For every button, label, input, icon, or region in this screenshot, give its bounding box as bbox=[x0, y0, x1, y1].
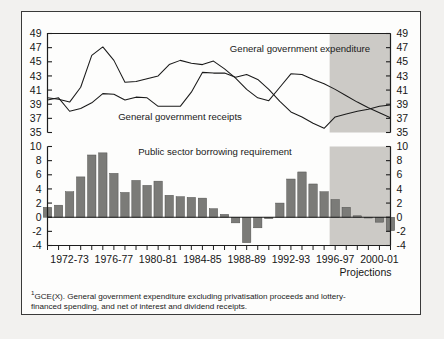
psbr-bar bbox=[88, 155, 96, 217]
ytick-label-left-39: 39 bbox=[30, 98, 42, 110]
ytick-label-left-43: 43 bbox=[30, 70, 42, 82]
psbr-bar bbox=[331, 200, 339, 218]
psbr-bar bbox=[287, 179, 295, 217]
psbr-bar bbox=[254, 217, 262, 228]
xtick-label: 1988-89 bbox=[227, 253, 266, 265]
psbr-bar bbox=[375, 217, 383, 222]
xtick-label: 1972-73 bbox=[50, 253, 89, 265]
ytick-label-left-2: 2 bbox=[36, 197, 42, 209]
ytick-label-left-35: 35 bbox=[30, 126, 42, 138]
ytick-label-right--4: -4 bbox=[397, 239, 406, 251]
ytick-label-right--2: -2 bbox=[397, 225, 406, 237]
annotation-general-government-expenditure: General government expenditure bbox=[230, 43, 370, 54]
annotation-public-sector-borrowing-requirement: Public sector borrowing requirement bbox=[138, 146, 292, 157]
psbr-bar bbox=[165, 195, 173, 217]
ytick-label-left-45: 45 bbox=[30, 55, 42, 67]
annotation-general-government-receipts: General government receipts bbox=[118, 111, 242, 122]
ytick-label-left-47: 47 bbox=[30, 41, 42, 53]
figure-background: 3537394143454749 3537394143454749 Genera… bbox=[0, 0, 444, 339]
psbr-bar bbox=[110, 173, 118, 217]
psbr-bar bbox=[143, 185, 151, 217]
ytick-label-left-10: 10 bbox=[30, 140, 42, 152]
top-panel-yticks-left: 3537394143454749 bbox=[30, 27, 52, 138]
psbr-bar bbox=[198, 198, 206, 217]
ytick-label-right-41: 41 bbox=[397, 84, 409, 96]
ytick-label-right-47: 47 bbox=[397, 41, 409, 53]
ytick-label-left-41: 41 bbox=[30, 84, 42, 96]
psbr-bar bbox=[54, 205, 62, 217]
xtick-label: 1992-93 bbox=[272, 253, 311, 265]
ytick-label-right-0: 0 bbox=[397, 211, 403, 223]
ytick-label-left-6: 6 bbox=[36, 168, 42, 180]
footnote-text: GCE(X). General government expenditure e… bbox=[31, 292, 346, 311]
bottom-panel-yticks-left: -4-20246810 bbox=[30, 140, 52, 251]
psbr-bar bbox=[176, 197, 184, 218]
ytick-label-right-39: 39 bbox=[397, 98, 409, 110]
ytick-label-right-2: 2 bbox=[397, 197, 403, 209]
ytick-label-right-4: 4 bbox=[397, 183, 403, 195]
ytick-label-right-35: 35 bbox=[397, 126, 409, 138]
ytick-label-left-49: 49 bbox=[30, 27, 42, 39]
ytick-label-right-6: 6 bbox=[397, 168, 403, 180]
psbr-bar bbox=[276, 203, 284, 217]
psbr-bar bbox=[209, 209, 217, 217]
ytick-label-right-37: 37 bbox=[397, 112, 409, 124]
psbr-bar bbox=[320, 192, 328, 217]
ytick-label-left--4: -4 bbox=[32, 239, 41, 251]
psbr-bar bbox=[65, 192, 73, 217]
bottom-panel-xticks bbox=[48, 246, 391, 251]
ytick-label-right-49: 49 bbox=[397, 27, 409, 39]
ytick-label-left-8: 8 bbox=[36, 154, 42, 166]
ytick-label-left-0: 0 bbox=[36, 211, 42, 223]
footnote: 1GCE(X). General government expenditure … bbox=[31, 288, 361, 312]
psbr-bar bbox=[187, 197, 195, 217]
bottom-panel-xtick-labels: 1972-731976-771980-811984-851988-891992-… bbox=[50, 253, 399, 265]
psbr-bar bbox=[121, 192, 129, 217]
ytick-label-left-37: 37 bbox=[30, 112, 42, 124]
projection-shading-bottom bbox=[330, 147, 391, 246]
psbr-bar bbox=[154, 181, 162, 217]
xtick-label: 1980-81 bbox=[139, 253, 178, 265]
ytick-label-left--2: -2 bbox=[32, 225, 41, 237]
psbr-bar bbox=[298, 172, 306, 217]
ytick-label-left-4: 4 bbox=[36, 183, 42, 195]
psbr-bar bbox=[242, 217, 250, 242]
ytick-label-right-8: 8 bbox=[397, 154, 403, 166]
psbr-bar bbox=[132, 180, 140, 217]
xtick-label: 1984-85 bbox=[183, 253, 222, 265]
ytick-label-right-45: 45 bbox=[397, 55, 409, 67]
ytick-label-right-10: 10 bbox=[397, 140, 409, 152]
projections-label: Projections bbox=[340, 266, 392, 278]
xtick-label: 1976-77 bbox=[95, 253, 134, 265]
psbr-bar bbox=[342, 207, 350, 217]
ytick-label-right-43: 43 bbox=[397, 70, 409, 82]
psbr-bar bbox=[231, 217, 239, 223]
xtick-label: 2000-01 bbox=[360, 253, 399, 265]
xtick-label: 1996-97 bbox=[316, 253, 355, 265]
psbr-bar bbox=[76, 177, 84, 217]
psbr-bar bbox=[99, 153, 107, 217]
psbr-bar bbox=[309, 184, 317, 217]
